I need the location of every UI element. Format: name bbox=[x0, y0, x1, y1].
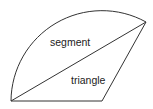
chord-line bbox=[11, 22, 146, 101]
sector-diagram: segment triangle bbox=[0, 0, 153, 109]
radius-right bbox=[102, 22, 146, 101]
segment-label: segment bbox=[50, 36, 90, 48]
arc bbox=[11, 11, 146, 101]
triangle-label: triangle bbox=[71, 74, 106, 86]
